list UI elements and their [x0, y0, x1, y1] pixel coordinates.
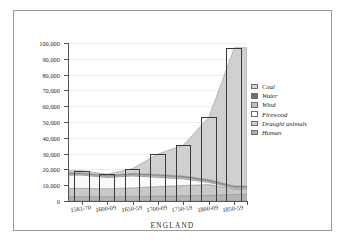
y-axis-tick: [64, 185, 69, 186]
legend-swatch-icon: [251, 84, 258, 90]
bar-outline: [201, 117, 217, 201]
x-axis-tick-label: 1650-59: [121, 203, 142, 212]
legend-item-label: Firewood: [262, 111, 287, 118]
legend-item-label: Coal: [262, 83, 275, 90]
x-axis-tick-label: 1600-09: [95, 203, 116, 212]
x-axis-tick-label: 1800-09: [197, 203, 218, 212]
y-axis-tick-label: 100,000: [39, 40, 64, 47]
y-axis-tick-label: 80,000: [42, 71, 64, 78]
bar-outline: [150, 154, 166, 201]
legend-item-label: Draught animals: [262, 120, 307, 127]
bar-outline: [176, 145, 192, 201]
legend-item-label: Wind: [262, 101, 276, 108]
bar-outlines: [69, 43, 247, 201]
chart-frame: ENGLAND CoalWaterWindFirewoodDraught ani…: [13, 10, 332, 231]
legend-swatch-icon: [251, 93, 258, 99]
legend-swatch-icon: [251, 102, 258, 108]
x-axis-tick: [247, 201, 248, 205]
legend-item: Firewood: [251, 110, 333, 119]
y-axis-tick: [64, 138, 69, 139]
y-axis-tick: [64, 90, 69, 91]
bar-outline: [226, 48, 242, 201]
legend-swatch-icon: [251, 121, 258, 127]
y-axis-tick-label: 0: [57, 198, 64, 205]
chart-legend: CoalWaterWindFirewoodDraught animalsHuma…: [251, 82, 333, 137]
y-axis-tick-label: 90,000: [42, 55, 64, 62]
legend-item: Human: [251, 128, 333, 137]
y-axis-tick: [64, 154, 69, 155]
legend-swatch-icon: [251, 111, 258, 117]
x-axis-tick-label: 1700-09: [146, 203, 167, 212]
y-axis-tick: [64, 43, 69, 44]
bar-outline: [74, 171, 90, 201]
legend-item: Coal: [251, 82, 333, 91]
y-axis-tick: [64, 106, 69, 107]
legend-item: Water: [251, 91, 333, 100]
bar-outline: [99, 174, 115, 201]
y-axis-tick: [64, 169, 69, 170]
y-axis-tick: [64, 59, 69, 60]
x-axis-tick-label: 1561-70: [70, 203, 91, 212]
legend-item-label: Water: [262, 92, 278, 99]
plot-area: [69, 43, 247, 201]
y-axis-tick: [64, 75, 69, 76]
bar-outline: [125, 169, 141, 201]
y-axis-tick-label: 60,000: [42, 103, 64, 110]
y-axis-tick: [64, 122, 69, 123]
y-axis-tick-label: 10,000: [42, 182, 64, 189]
y-axis-tick-label: 50,000: [42, 119, 64, 126]
y-axis-tick: [64, 201, 69, 202]
legend-item: Wind: [251, 100, 333, 109]
y-axis-tick-label: 40,000: [42, 134, 64, 141]
x-axis-tick-label: 1750-59: [171, 203, 192, 212]
x-axis-title: ENGLAND: [14, 222, 331, 230]
y-axis-tick-label: 70,000: [42, 87, 64, 94]
legend-item: Draught animals: [251, 119, 333, 128]
legend-item-label: Human: [262, 129, 281, 136]
legend-swatch-icon: [251, 130, 258, 136]
y-axis-tick-label: 20,000: [42, 166, 64, 173]
x-axis-tick-label: 1850-59: [222, 203, 243, 212]
y-axis-tick-label: 30,000: [42, 150, 64, 157]
